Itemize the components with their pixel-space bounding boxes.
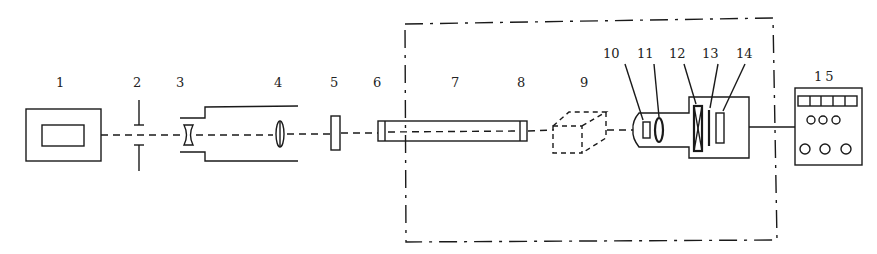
optical-setup-diagram: 1 2 3 4 5 6 7 8 9 10 11 12 13 14 15 <box>0 0 877 254</box>
component-15-instrument <box>795 88 862 165</box>
diagram-canvas <box>0 0 877 254</box>
component-1-light-source <box>26 109 101 161</box>
detector-housing <box>633 97 795 158</box>
label-3: 3 <box>176 76 184 89</box>
enclosure-box <box>405 18 777 242</box>
component-5-filter <box>331 116 340 150</box>
label-15: 15 <box>814 70 837 83</box>
label-9: 9 <box>580 76 588 89</box>
label-10: 10 <box>603 47 620 60</box>
component-11-lens <box>654 64 663 142</box>
label-7: 7 <box>451 76 459 89</box>
component-12-crossed-element <box>684 64 702 151</box>
label-14: 14 <box>736 47 753 60</box>
component-9-cube <box>553 112 606 153</box>
label-4: 4 <box>274 76 282 89</box>
component-3-concave-lens <box>184 125 193 145</box>
component-4-convex-lens <box>276 121 284 147</box>
label-13: 13 <box>702 47 719 60</box>
label-1: 1 <box>56 76 64 89</box>
label-8: 8 <box>517 76 525 89</box>
label-12: 12 <box>669 47 686 60</box>
label-11: 11 <box>637 47 654 60</box>
label-6: 6 <box>373 76 381 89</box>
label-5: 5 <box>330 76 338 89</box>
label-2: 2 <box>133 76 141 89</box>
component-14-detector <box>716 64 745 143</box>
component-10-slit <box>625 64 650 138</box>
